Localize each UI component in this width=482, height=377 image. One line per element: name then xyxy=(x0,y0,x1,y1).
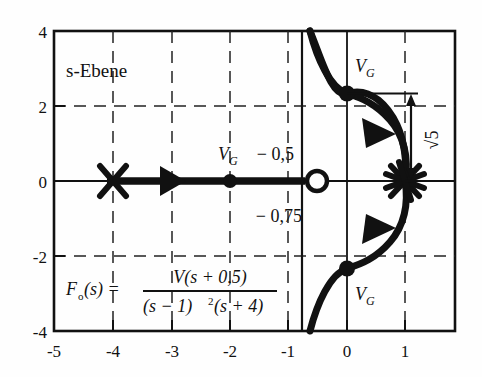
x-tick-label: 1 xyxy=(401,342,410,361)
centroid-value-label: − 0,75 xyxy=(256,206,302,226)
gain-dot-real-axis xyxy=(223,174,237,188)
formula-denominator-post: (s + 4) xyxy=(214,296,263,317)
sqrt5-label-text: √5 xyxy=(422,131,442,150)
sqrt5-label: √5 xyxy=(422,131,442,150)
y-tick-label: 2 xyxy=(39,98,48,117)
gain-label-real-axis: V G xyxy=(218,144,238,168)
x-tick-label: 0 xyxy=(343,342,352,361)
x-tick-labels: -5 -4 -3 -2 -1 0 1 xyxy=(47,342,409,361)
transfer-function-formula: F o (s) = V(s + 0,5) (s − 1) 2 (s + 4) xyxy=(65,267,277,317)
zero-marker-minus0p5 xyxy=(307,171,327,191)
x-tick-label: -5 xyxy=(47,342,61,361)
gain-label-real-axis-sub: G xyxy=(229,154,238,168)
gain-label-top-right-sub: G xyxy=(366,66,375,80)
zero-value-label: − 0,5 xyxy=(257,144,294,164)
root-canvas: -5 -4 -3 -2 -1 0 1 4 2 0 -2 -4 xyxy=(0,0,482,377)
x-tick-label: -1 xyxy=(281,342,295,361)
x-tick-label: -4 xyxy=(106,342,121,361)
gain-dot-lower-branch xyxy=(339,261,355,277)
formula-lhs-arg: (s) = xyxy=(84,279,120,300)
formula-denominator-exp: 2 xyxy=(208,295,214,307)
y-tick-label: -4 xyxy=(33,323,48,342)
formula-denominator: (s − 1) 2 (s + 4) xyxy=(143,295,263,317)
y-tick-label: 0 xyxy=(39,173,48,192)
x-tick-label: -3 xyxy=(165,342,179,361)
sqrt5-arrowhead-up xyxy=(406,94,416,106)
locus-arrow-real-axis xyxy=(160,166,186,196)
root-locus-plot: -5 -4 -3 -2 -1 0 1 4 2 0 -2 -4 xyxy=(0,0,482,377)
gain-label-top-right: V G xyxy=(355,56,375,80)
formula-numerator: V(s + 0,5) xyxy=(173,267,247,288)
formula-lhs: F xyxy=(65,279,78,299)
x-tick-label: -2 xyxy=(223,342,237,361)
y-tick-labels: 4 2 0 -2 -4 xyxy=(33,23,48,342)
y-tick-label: -2 xyxy=(33,248,47,267)
formula-denominator-pre: (s − 1) xyxy=(143,296,192,317)
gain-label-bottom-sub: G xyxy=(366,294,375,308)
gain-label-bottom: V G xyxy=(355,284,375,308)
s-plane-label: s-Ebene xyxy=(66,60,127,81)
y-tick-label: 4 xyxy=(39,23,48,42)
